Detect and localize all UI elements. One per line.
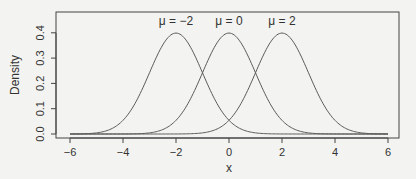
y-tick-label: 0.0 <box>34 126 46 141</box>
y-tick-label: 0.2 <box>34 76 46 91</box>
curve-label-0: μ = −2 <box>159 14 194 28</box>
curve-label-1: μ = 0 <box>215 14 243 28</box>
y-tick-label: 0.3 <box>34 50 46 65</box>
density-curve-2 <box>70 33 388 134</box>
density-chart: μ = −2μ = 0μ = 2 −6−4−20246 0.00.10.20.3… <box>0 0 416 179</box>
y-tick-label: 0.4 <box>34 25 46 40</box>
x-tick-label: 6 <box>385 146 391 158</box>
density-curves <box>70 33 388 134</box>
curve-labels: μ = −2μ = 0μ = 2 <box>159 14 296 28</box>
density-curve-1 <box>70 33 388 134</box>
density-curve-0 <box>70 33 388 134</box>
x-tick-label: −4 <box>117 146 130 158</box>
x-tick-label: −2 <box>170 146 183 158</box>
x-tick-label: −6 <box>64 146 77 158</box>
y-axis: 0.00.10.20.30.4 <box>34 25 56 141</box>
x-tick-label: 2 <box>279 146 285 158</box>
y-tick-label: 0.1 <box>34 101 46 116</box>
x-tick-label: 4 <box>332 146 338 158</box>
x-axis: −6−4−20246 <box>64 138 391 158</box>
y-axis-title: Density <box>8 55 22 95</box>
x-tick-label: 0 <box>226 146 232 158</box>
x-axis-title: x <box>226 161 232 175</box>
curve-label-2: μ = 2 <box>268 14 296 28</box>
